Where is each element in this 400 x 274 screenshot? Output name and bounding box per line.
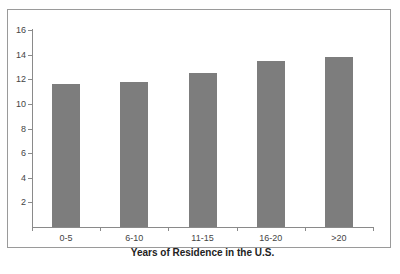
x-tick-label: 16-20 (241, 233, 301, 243)
y-axis (32, 29, 33, 227)
y-tick-label: 8 (8, 124, 26, 134)
x-tick-label: 11-15 (173, 233, 233, 243)
y-tick (28, 178, 32, 179)
y-tick (28, 79, 32, 80)
y-tick (28, 153, 32, 154)
x-axis (32, 227, 373, 228)
y-tick-label: 12 (8, 74, 26, 84)
bar->20 (325, 57, 353, 227)
y-tick-label: 10 (8, 99, 26, 109)
x-tick (237, 227, 238, 231)
x-axis-title: Years of Residence in the U.S. (32, 247, 373, 258)
x-tick (32, 227, 33, 231)
y-tick (28, 30, 32, 31)
y-tick-label: 14 (8, 50, 26, 60)
x-tick-label: 0-5 (36, 233, 96, 243)
x-tick-label: >20 (309, 233, 369, 243)
y-tick-label: 6 (8, 148, 26, 158)
y-tick-label: 2 (8, 197, 26, 207)
x-tick (373, 227, 374, 231)
bar-16-20 (257, 61, 285, 227)
bar-11-15 (189, 73, 217, 227)
x-tick-label: 6-10 (104, 233, 164, 243)
x-tick (168, 227, 169, 231)
bar-0-5 (52, 84, 80, 227)
y-tick (28, 129, 32, 130)
y-tick (28, 202, 32, 203)
y-tick (28, 55, 32, 56)
x-tick (305, 227, 306, 231)
x-tick (100, 227, 101, 231)
y-tick-label: 4 (8, 173, 26, 183)
y-tick (28, 104, 32, 105)
bar-6-10 (120, 82, 148, 227)
y-tick-label: 16 (8, 25, 26, 35)
